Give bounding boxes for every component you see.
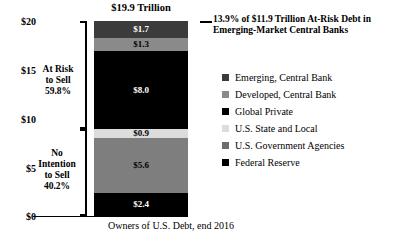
x-axis-baseline [36,216,188,217]
bar-segment-label: $0.9 [133,129,149,138]
bar-segment-global-private: $8.0 [94,51,188,129]
annotation-line-2: Emerging-Market Central Banks [213,25,401,36]
bar-segment-label: $1.7 [133,25,149,34]
y-axis-tick-0: $0 [2,212,36,222]
legend-item-label: Global Private [235,106,293,117]
x-axis-caption: Owners of U.S. Debt, end 2016 [76,220,266,232]
bracket-arm-top [80,129,87,131]
bracket-no-intention-to-sell [80,129,87,216]
bracket-label-line-4: 40.2% [34,181,80,192]
bracket-arm-bottom [80,214,87,216]
bracket-label-line-3: to Sell [34,170,80,181]
bracket-spine [85,21,87,129]
bracket-arm-top [80,21,87,23]
legend-swatch-icon [222,91,229,98]
bar-segment-us-state-and-local: $0.9 [94,129,188,138]
y-axis: $20 $15 $10 $5 $0 [0,0,36,238]
legend-item-us-state-and-local: U.S. State and Local [222,120,344,137]
bracket-label-line-2: to Sell [36,75,80,86]
legend-item-emerging-central-bank: Emerging, Central Bank [222,69,344,86]
y-axis-tick-5: $5 [2,164,36,174]
bracket-at-risk-to-sell [80,21,87,129]
stacked-bar-chart: $20 $15 $10 $5 $0 $19.9 Trillion $1.7 $1… [0,0,403,238]
bar-segment-developed-central-bank: $1.3 [94,38,188,51]
legend-item-developed-central-bank: Developed, Central Bank [222,86,344,103]
y-axis-zero-tick [33,216,37,217]
legend-item-us-government-agencies: U.S. Government Agencies [222,137,344,154]
bracket-label-no-intention-to-sell: No Intention to Sell 40.2% [34,148,80,192]
bracket-spine [85,129,87,216]
bar-segment-label: $1.3 [133,40,149,49]
legend-item-label: Developed, Central Bank [235,89,336,100]
bracket-label-line-2: Intention [34,159,80,170]
legend-item-label: Emerging, Central Bank [235,72,332,83]
bar-total-title: $19.9 Trillion [76,2,206,13]
annotation-leader-line [200,21,212,23]
bar-segment-label: $2.4 [133,200,149,209]
legend-swatch-icon [222,108,229,115]
y-axis-tick-15: $15 [2,66,36,76]
legend-item-federal-reserve: Federal Reserve [222,154,344,171]
legend-item-global-private: Global Private [222,103,344,120]
y-axis-tick-20: $20 [2,17,36,27]
legend-swatch-icon [222,125,229,132]
at-risk-emerging-annotation: 13.9% of $11.9 Trillion At-Risk Debt in … [213,14,401,36]
bracket-label-line-1: At Risk [36,64,80,75]
bar-segment-label: $5.6 [133,161,149,170]
legend-swatch-icon [222,159,229,166]
stacked-bar: $1.7 $1.3 $8.0 $0.9 $5.6 $2.4 [94,21,188,216]
legend: Emerging, Central Bank Developed, Centra… [222,69,344,171]
legend-item-label: Federal Reserve [235,157,300,168]
annotation-line-1: 13.9% of $11.9 Trillion At-Risk Debt in [213,14,401,25]
bar-segment-federal-reserve: $2.4 [94,193,188,216]
bracket-label-line-1: No [34,148,80,159]
bar-segment-us-government-agencies: $5.6 [94,138,188,193]
y-axis-tick-10: $10 [2,115,36,125]
bracket-label-line-3: 59.8% [36,86,80,97]
legend-item-label: U.S. Government Agencies [235,140,344,151]
bar-segment-label: $8.0 [133,86,149,95]
legend-swatch-icon [222,142,229,149]
bar-segment-emerging-central-bank: $1.7 [94,21,188,38]
legend-item-label: U.S. State and Local [235,123,317,134]
bracket-label-at-risk-to-sell: At Risk to Sell 59.8% [36,64,80,97]
legend-swatch-icon [222,74,229,81]
